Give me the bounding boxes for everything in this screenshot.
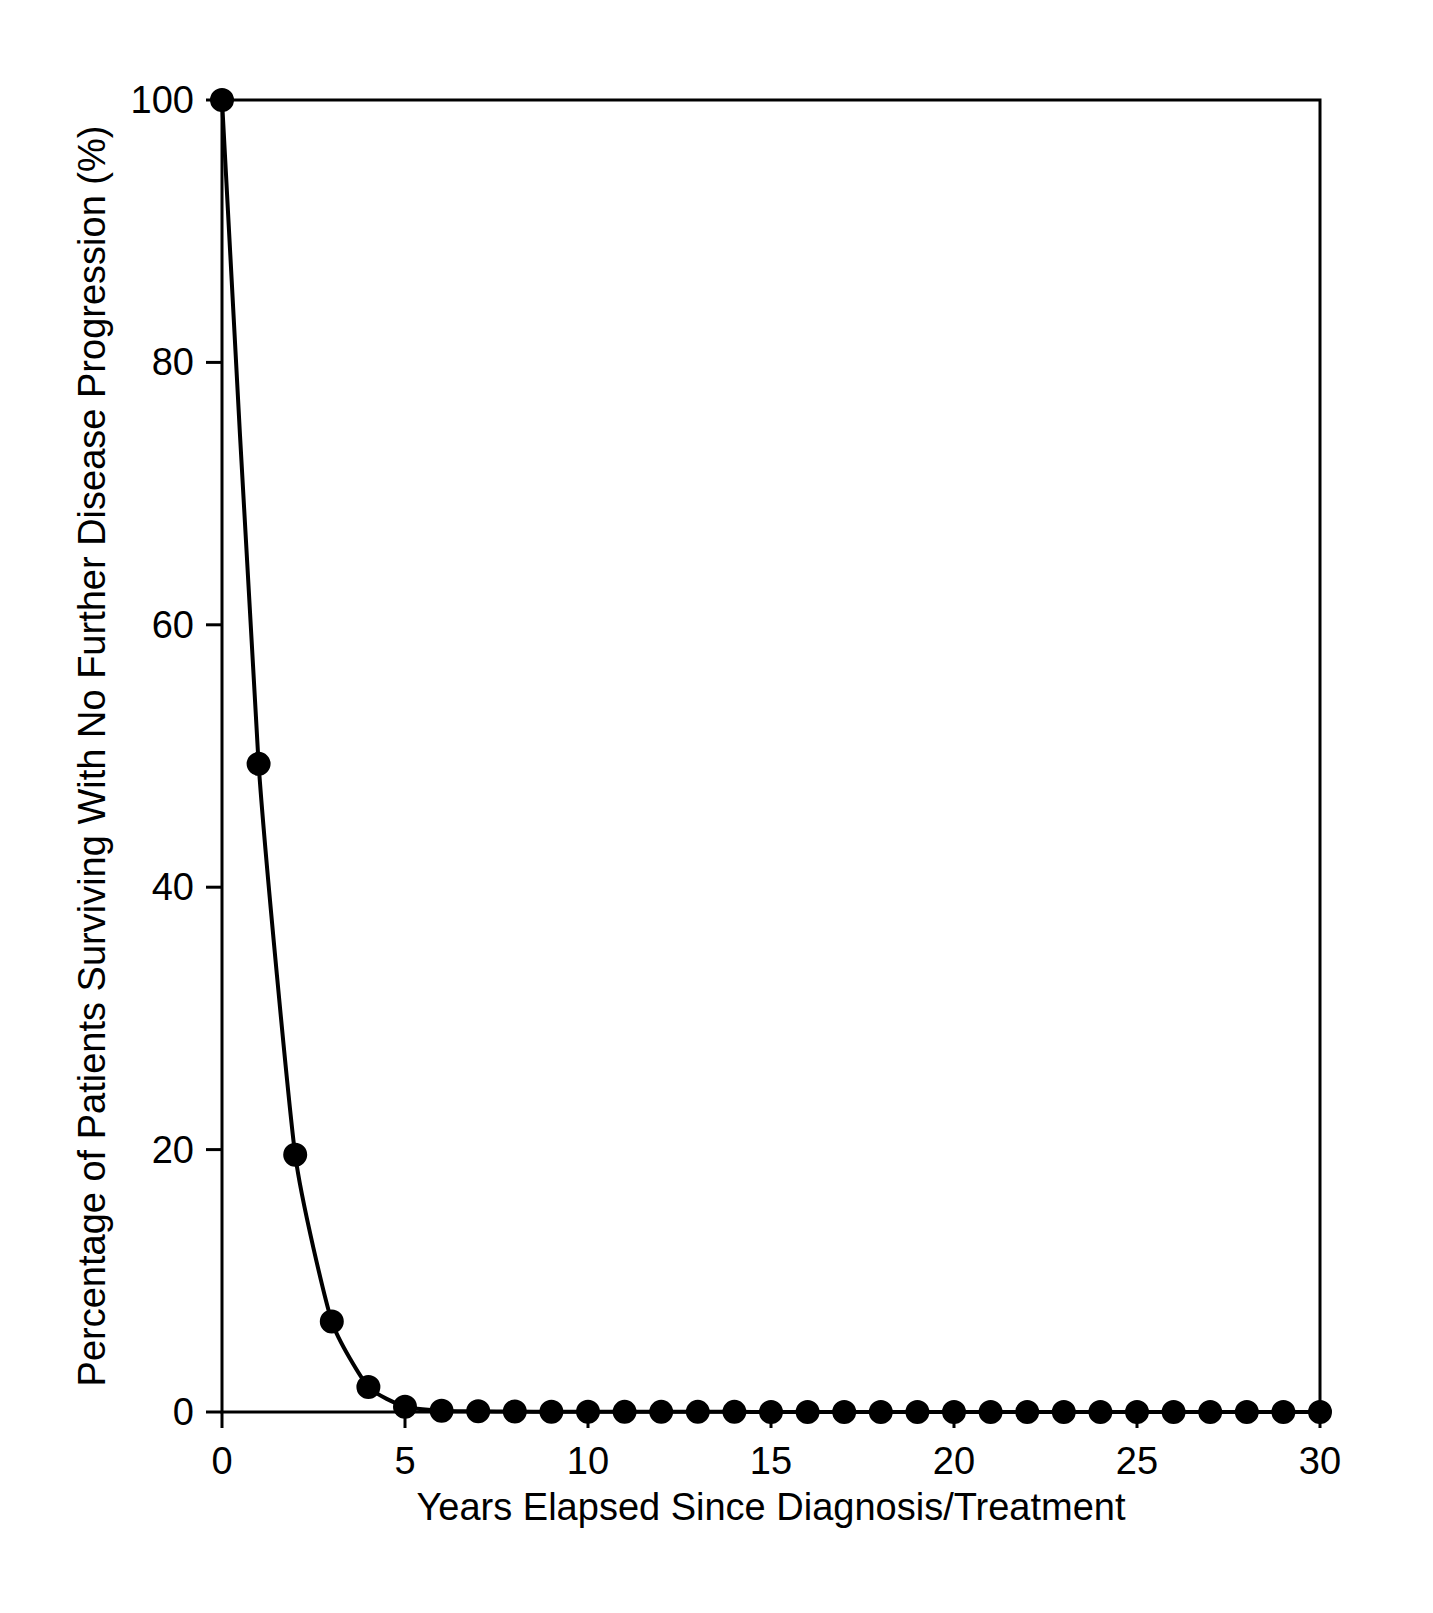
- x-axis-title: Years Elapsed Since Diagnosis/Treatment: [416, 1486, 1125, 1528]
- data-point-marker: [1126, 1401, 1148, 1423]
- data-point-marker: [723, 1401, 745, 1423]
- y-axis-ticks: [206, 100, 222, 1412]
- data-point-marker: [540, 1401, 562, 1423]
- x-tick-label: 25: [1116, 1440, 1158, 1482]
- data-point-marker: [614, 1401, 636, 1423]
- data-point-marker: [797, 1401, 819, 1423]
- data-point-marker: [833, 1401, 855, 1423]
- data-point-marker: [943, 1401, 965, 1423]
- y-tick-label: 100: [131, 79, 194, 121]
- data-point-marker: [431, 1400, 453, 1422]
- x-tick-label: 30: [1299, 1440, 1341, 1482]
- x-axis-tick-labels: 051015202530: [211, 1440, 1341, 1482]
- data-point-marker: [1089, 1401, 1111, 1423]
- data-point-marker: [650, 1401, 672, 1423]
- data-point-marker: [1272, 1401, 1294, 1423]
- data-point-marker: [211, 89, 233, 111]
- data-point-marker: [467, 1400, 489, 1422]
- x-tick-label: 10: [567, 1440, 609, 1482]
- data-point-marker: [1309, 1401, 1331, 1423]
- y-axis-tick-labels: 020406080100: [131, 79, 194, 1433]
- data-point-marker: [394, 1396, 416, 1418]
- data-point-marker: [687, 1401, 709, 1423]
- data-point-marker: [248, 753, 270, 775]
- x-tick-label: 0: [211, 1440, 232, 1482]
- data-point-marker: [1163, 1401, 1185, 1423]
- data-point-marker: [284, 1144, 306, 1166]
- x-tick-label: 15: [750, 1440, 792, 1482]
- y-axis-title: Percentage of Patients Surviving With No…: [71, 126, 113, 1387]
- data-point-marker: [577, 1401, 599, 1423]
- y-tick-label: 40: [152, 866, 194, 908]
- data-point-marker: [504, 1401, 526, 1423]
- y-tick-label: 60: [152, 604, 194, 646]
- plot-border: [222, 100, 1320, 1412]
- data-point-marker: [980, 1401, 1002, 1423]
- data-point-marker: [760, 1401, 782, 1423]
- x-tick-label: 5: [394, 1440, 415, 1482]
- data-point-marker: [1199, 1401, 1221, 1423]
- data-point-marker: [321, 1310, 343, 1332]
- data-point-marker: [870, 1401, 892, 1423]
- data-point-marker: [906, 1401, 928, 1423]
- data-point-marker: [1016, 1401, 1038, 1423]
- y-tick-label: 80: [152, 341, 194, 383]
- y-tick-label: 0: [173, 1391, 194, 1433]
- x-tick-label: 20: [933, 1440, 975, 1482]
- data-point-marker: [1053, 1401, 1075, 1423]
- chart-figure: 020406080100 051015202530 Years Elapsed …: [0, 0, 1433, 1613]
- y-tick-label: 20: [152, 1129, 194, 1171]
- line-chart: 020406080100 051015202530 Years Elapsed …: [0, 0, 1433, 1613]
- data-point-marker: [357, 1376, 379, 1398]
- data-point-marker: [1236, 1401, 1258, 1423]
